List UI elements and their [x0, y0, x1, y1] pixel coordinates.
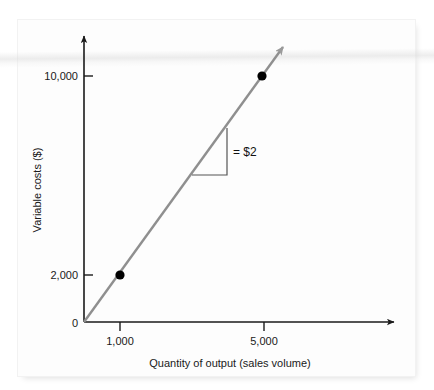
- y-tick-label-10000: 10,000: [44, 70, 78, 82]
- y-axis-title: Variable costs ($): [31, 148, 43, 233]
- figure-container: 10,000 2,000 0 1,000 5,000 Variable cost…: [0, 0, 434, 390]
- origin-label: 0: [72, 317, 78, 329]
- x-axis-title: Quantity of output (sales volume): [149, 357, 310, 369]
- variable-cost-line: [84, 47, 283, 322]
- slope-triangle: [192, 128, 227, 175]
- y-tick-label-2000: 2,000: [50, 269, 78, 281]
- slope-annotation-label: = $2: [233, 145, 257, 159]
- data-point-1000: [115, 270, 124, 279]
- x-tick-label-5000: 5,000: [250, 335, 278, 347]
- variable-costs-chart: 10,000 2,000 0 1,000 5,000 Variable cost…: [0, 0, 434, 390]
- data-point-5000: [257, 71, 266, 80]
- x-tick-label-1000: 1,000: [106, 335, 134, 347]
